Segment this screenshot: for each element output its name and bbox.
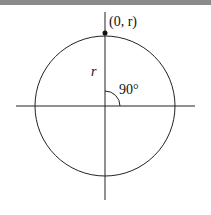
point-label: (0, r) xyxy=(109,14,137,30)
right-angle-arc xyxy=(105,91,120,106)
circle-diagram: (0, r) r 90° xyxy=(0,0,211,215)
radius-label: r xyxy=(91,64,97,79)
point-marker xyxy=(103,31,108,36)
angle-label: 90° xyxy=(119,82,139,97)
